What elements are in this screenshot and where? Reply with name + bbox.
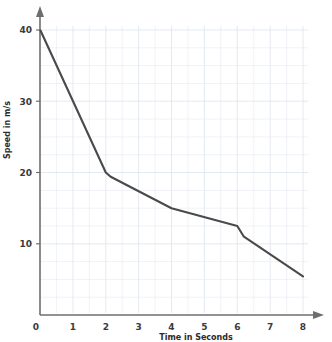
x-tick-label-1: 1 bbox=[70, 322, 76, 332]
y-tick-label-40: 40 bbox=[19, 25, 32, 35]
x-tick-label-2: 2 bbox=[103, 322, 109, 332]
origin-label: 0 bbox=[33, 322, 39, 332]
x-tick-label-3: 3 bbox=[135, 322, 141, 332]
x-tick-label-8: 8 bbox=[300, 322, 306, 332]
plot-background bbox=[40, 18, 308, 315]
y-tick-label-20: 20 bbox=[19, 168, 32, 178]
x-tick-label-5: 5 bbox=[201, 322, 207, 332]
y-axis-arrow-icon bbox=[36, 6, 44, 17]
chart-canvas: 10 20 30 40 0 1 2 3 4 5 6 7 8 Time in Se… bbox=[0, 0, 332, 342]
x-axis-arrow-icon bbox=[313, 311, 324, 319]
x-tick-label-4: 4 bbox=[168, 322, 174, 332]
y-tick-label-30: 30 bbox=[19, 97, 32, 107]
x-tick-label-6: 6 bbox=[234, 322, 240, 332]
speed-time-line-chart: 10 20 30 40 0 1 2 3 4 5 6 7 8 Time in Se… bbox=[0, 0, 332, 342]
x-tick-label-7: 7 bbox=[267, 322, 273, 332]
x-axis-title: Time in Seconds bbox=[159, 333, 233, 342]
y-axis-title: Speed in m/s bbox=[3, 101, 12, 159]
y-tick-label-10: 10 bbox=[19, 239, 32, 249]
